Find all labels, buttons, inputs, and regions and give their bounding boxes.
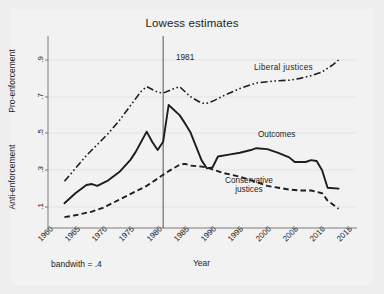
series-line-liberal-justices xyxy=(64,60,338,181)
annotation-1981: 1981 xyxy=(176,53,194,62)
bandwidth-footnote: bandwith = .4 xyxy=(51,259,102,269)
annotation-conservative-justices: Conservative justices xyxy=(225,176,273,195)
annotation-outcomes: Outcomes xyxy=(258,130,295,139)
annotation-liberal-justices: Liberal justices xyxy=(254,63,313,72)
series-line-outcomes xyxy=(64,105,338,203)
series-line-conservative-justices xyxy=(64,164,338,217)
annotation-conservative-line1: Conservative xyxy=(225,176,273,185)
chart-figure: Lowess estimates Pro-enforcement Anti-en… xyxy=(0,0,384,294)
annotation-conservative-line2: justices xyxy=(225,185,273,194)
plot-area xyxy=(0,0,384,294)
